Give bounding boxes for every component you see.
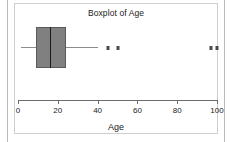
- x-axis-tick-label: 20: [53, 106, 62, 115]
- x-axis-tick-label: 100: [210, 106, 223, 115]
- outlier-point: [106, 46, 109, 50]
- x-axis-tick-label: 0: [16, 106, 20, 115]
- x-axis-tick-label: 40: [93, 106, 102, 115]
- screenshot-root: Boxplot of Age 020406080100 Age: [0, 0, 233, 142]
- x-axis-tick: [217, 100, 218, 104]
- x-axis-tick: [137, 100, 138, 104]
- boxplot-chart: Boxplot of Age 020406080100 Age: [0, 0, 233, 142]
- x-axis-tick: [177, 100, 178, 104]
- outlier-point: [210, 46, 213, 50]
- x-axis-tick: [18, 100, 19, 104]
- x-axis-label: Age: [14, 122, 218, 132]
- whisker-lower: [21, 47, 36, 48]
- outlier-point: [216, 46, 219, 50]
- x-axis-tick-label: 80: [173, 106, 182, 115]
- chart-title: Boxplot of Age: [14, 8, 218, 18]
- x-axis-tick: [98, 100, 99, 104]
- outlier-point: [116, 46, 119, 50]
- x-axis-tick: [58, 100, 59, 104]
- median-line: [50, 27, 52, 68]
- x-axis-line: [18, 100, 217, 101]
- x-axis-tick-label: 60: [133, 106, 142, 115]
- whisker-upper: [66, 47, 98, 48]
